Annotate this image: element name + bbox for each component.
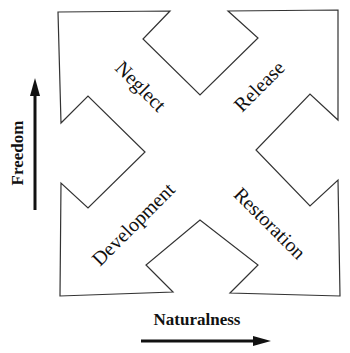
diagram-canvas: Neglect Release Development Restoration … <box>0 0 350 353</box>
freedom-axis-label: Freedom <box>8 121 27 186</box>
naturalness-axis-arrow <box>141 336 271 346</box>
naturalness-axis-label: Naturalness <box>154 310 241 329</box>
arrowhead-right-icon <box>253 336 271 346</box>
freedom-axis-arrow <box>30 78 40 210</box>
arrowhead-up-icon <box>30 78 40 96</box>
four-quadrant-diagram: Neglect Release Development Restoration … <box>0 0 350 353</box>
